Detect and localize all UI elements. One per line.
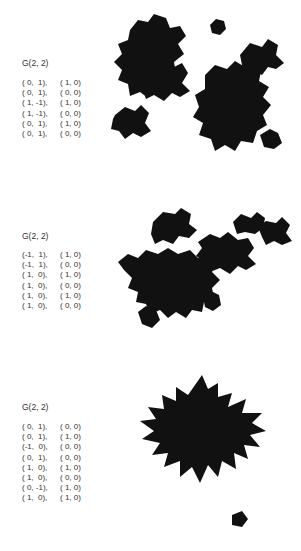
digit: ( 1, 0): [60, 98, 81, 108]
fractal-tile-image: [112, 365, 292, 545]
digit: ( 0, 0): [60, 129, 81, 139]
digit: ( 0, 0): [60, 422, 81, 432]
vector: ( 0, 1),: [22, 119, 60, 129]
fractal-tile-image: [108, 202, 301, 352]
figure-panel-2: G(2, 2) (-1, 1),( 1, 0) (-1, 1),( 0, 0) …: [0, 190, 301, 360]
digit: ( 0, 0): [60, 109, 81, 119]
digit-pair: ( 0, 1),( 1, 0): [22, 78, 81, 88]
vector: ( 0, 1),: [22, 422, 60, 432]
digit-set-list: ( 0, 1),( 0, 0) ( 0, 1),( 1, 0) (-1, 0),…: [22, 422, 81, 504]
digit-pair: (-1, 1),( 1, 0): [22, 250, 81, 260]
vector: ( 1, 0),: [22, 291, 60, 301]
vector: ( 0, 1),: [22, 432, 60, 442]
figure-title: G(2, 2): [22, 231, 48, 241]
vector: ( 1, 0),: [22, 473, 60, 483]
digit-pair: ( 1, 0),( 0, 0): [22, 301, 81, 311]
vector: (-1, 1),: [22, 260, 60, 270]
digit-set-list: ( 0, 1),( 1, 0) ( 0, 1),( 0, 0) ( 1, -1)…: [22, 78, 81, 139]
digit: ( 1, 0): [60, 291, 81, 301]
vector: ( 1, -1),: [22, 109, 60, 119]
vector: ( 0, 1),: [22, 78, 60, 88]
digit-pair: ( 1, 0),( 1, 0): [22, 291, 81, 301]
vector: ( 0, 1),: [22, 88, 60, 98]
vector: ( 1, 0),: [22, 301, 60, 311]
digit: ( 0, 0): [60, 473, 81, 483]
digit-pair: ( 0, 1),( 0, 0): [22, 88, 81, 98]
digit-pair: ( 0, 1),( 0, 0): [22, 422, 81, 432]
digit: ( 0, 0): [60, 453, 81, 463]
figure-title: G(2, 2): [22, 58, 48, 68]
digit-pair: ( 0, -1),( 1, 0): [22, 483, 81, 493]
digit-set-list: (-1, 1),( 1, 0) (-1, 1),( 0, 0) ( 1, 0),…: [22, 250, 81, 311]
digit-pair: ( 1, 0),( 0, 0): [22, 473, 81, 483]
digit-pair: ( 0, 1),( 1, 0): [22, 119, 81, 129]
digit: ( 1, 0): [60, 78, 81, 88]
figure-panel-3: G(2, 2) ( 0, 1),( 0, 0) ( 0, 1),( 1, 0) …: [0, 360, 301, 551]
vector: (-1, 0),: [22, 442, 60, 452]
digit: ( 1, 0): [60, 432, 81, 442]
vector: (-1, 1),: [22, 250, 60, 260]
figure-title: G(2, 2): [22, 402, 48, 412]
vector: ( 1, -1),: [22, 98, 60, 108]
vector: ( 1, 0),: [22, 463, 60, 473]
digit: ( 0, 0): [60, 260, 81, 270]
vector: ( 1, 0),: [22, 281, 60, 291]
digit-pair: (-1, 1),( 0, 0): [22, 260, 81, 270]
vector: ( 0, 1),: [22, 129, 60, 139]
digit-pair: ( 0, 1),( 1, 0): [22, 432, 81, 442]
digit: ( 1, 0): [60, 493, 81, 503]
digit: ( 1, 0): [60, 483, 81, 493]
digit: ( 1, 0): [60, 270, 81, 280]
fractal-tile-image: [110, 5, 301, 185]
digit-pair: ( 1, 0),( 1, 0): [22, 270, 81, 280]
vector: ( 0, 1),: [22, 453, 60, 463]
digit-pair: ( 1, -1),( 1, 0): [22, 98, 81, 108]
vector: ( 1, 0),: [22, 493, 60, 503]
digit: ( 0, 0): [60, 281, 81, 291]
vector: ( 1, 0),: [22, 270, 60, 280]
digit: ( 1, 0): [60, 463, 81, 473]
figure-panel-1: G(2, 2) ( 0, 1),( 1, 0) ( 0, 1),( 0, 0) …: [0, 0, 301, 190]
digit: ( 1, 0): [60, 119, 81, 129]
digit-pair: ( 0, 1),( 0, 0): [22, 129, 81, 139]
digit: ( 1, 0): [60, 250, 81, 260]
digit: ( 0, 0): [60, 88, 81, 98]
digit-pair: ( 0, 1),( 0, 0): [22, 453, 81, 463]
digit-pair: (-1, 0),( 0, 0): [22, 442, 81, 452]
digit-pair: ( 1, 0),( 0, 0): [22, 281, 81, 291]
digit-pair: ( 1, -1),( 0, 0): [22, 109, 81, 119]
digit: ( 0, 0): [60, 301, 81, 311]
vector: ( 0, -1),: [22, 483, 60, 493]
digit-pair: ( 1, 0),( 1, 0): [22, 493, 81, 503]
digit: ( 0, 0): [60, 442, 81, 452]
digit-pair: ( 1, 0),( 1, 0): [22, 463, 81, 473]
